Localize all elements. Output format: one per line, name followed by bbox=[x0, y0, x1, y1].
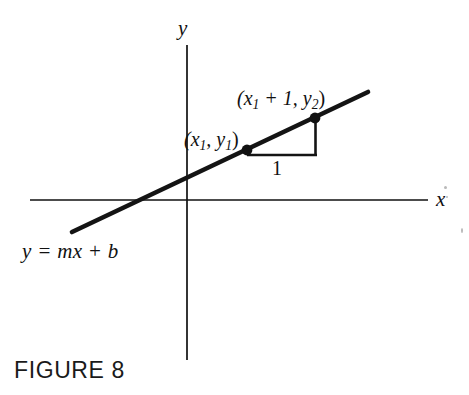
figure-8-container: y x (x1 + 1, y2) (x1, y1) 1 y = mx + b F… bbox=[0, 0, 469, 395]
point-marker-x1-plus-1-y2 bbox=[310, 113, 321, 124]
scan-speck bbox=[444, 186, 447, 189]
run-length-label: 1 bbox=[272, 158, 282, 178]
point-label-x1-y1: (x1, y1) bbox=[184, 129, 239, 152]
point-label-lower-open: (x bbox=[184, 128, 200, 150]
point-label-upper-mid: + 1, y bbox=[259, 87, 311, 109]
coordinate-plot bbox=[0, 0, 469, 395]
line-equation-label: y = mx + b bbox=[22, 241, 119, 262]
figure-caption: FIGURE 8 bbox=[14, 357, 125, 384]
scan-speck bbox=[446, 196, 448, 198]
y-axis-label: y bbox=[178, 18, 187, 39]
point-label-upper-sub2: 2 bbox=[312, 97, 319, 112]
scan-speck bbox=[461, 228, 463, 233]
y-axis-label-text: y bbox=[178, 16, 187, 40]
x-axis-label: x bbox=[436, 189, 445, 210]
point-label-lower-mid: , y bbox=[206, 128, 225, 150]
point-label-lower-sub2: 1 bbox=[225, 138, 232, 153]
run-length-text: 1 bbox=[272, 157, 282, 179]
line-equation-text: y = mx + b bbox=[22, 239, 119, 263]
figure-caption-text: FIGURE 8 bbox=[14, 357, 125, 383]
point-marker-x1-y1 bbox=[242, 145, 253, 156]
plotted-line bbox=[72, 92, 368, 232]
point-label-upper-open: (x bbox=[237, 87, 253, 109]
point-label-lower-close: ) bbox=[232, 128, 239, 150]
point-label-upper-close: ) bbox=[319, 87, 326, 109]
point-label-x1-plus-1-y2: (x1 + 1, y2) bbox=[237, 88, 325, 111]
x-axis-label-text: x bbox=[436, 187, 445, 211]
